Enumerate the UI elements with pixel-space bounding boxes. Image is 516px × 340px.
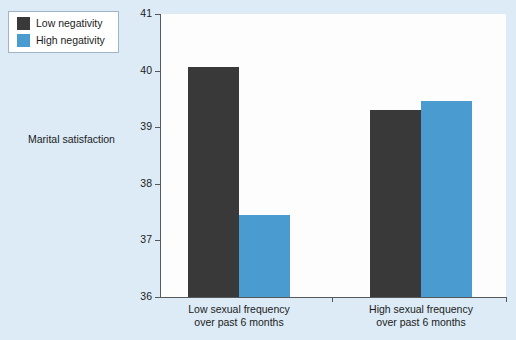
x-category-label: Low sexual frequencyover past 6 months xyxy=(149,303,329,329)
bar xyxy=(370,110,421,297)
bar xyxy=(421,101,472,297)
y-tick-mark xyxy=(155,297,161,298)
bars-layer xyxy=(0,0,516,297)
bar xyxy=(188,67,239,297)
bar xyxy=(239,215,290,297)
chart-figure: Low negativity High negativity Marital s… xyxy=(0,0,516,340)
x-category-label-line: High sexual frequency xyxy=(369,303,473,315)
x-axis-separator-tick xyxy=(332,297,333,302)
x-category-label-line: over past 6 months xyxy=(149,316,329,329)
x-axis-separator-tick xyxy=(506,297,507,302)
x-category-label-line: Low sexual frequency xyxy=(188,303,290,315)
x-category-label-line: over past 6 months xyxy=(331,316,511,329)
x-axis-line xyxy=(160,297,506,298)
x-category-label: High sexual frequencyover past 6 months xyxy=(331,303,511,329)
